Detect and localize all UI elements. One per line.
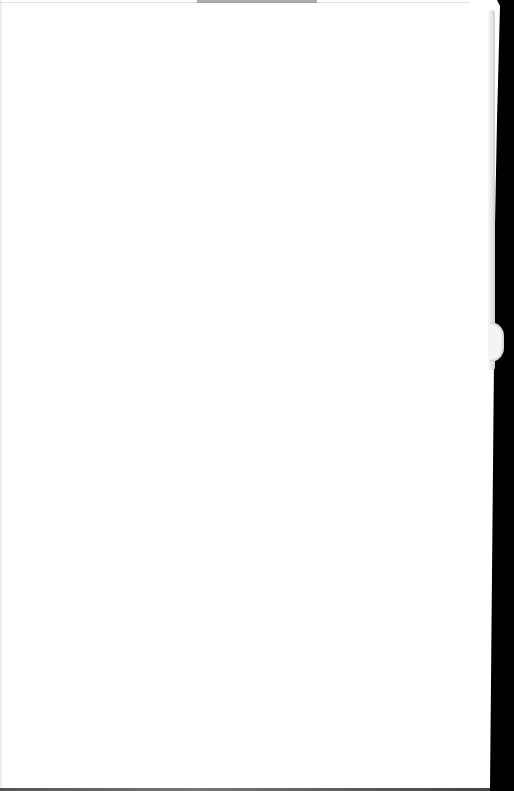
- cut-off-running-header: [197, 0, 317, 3]
- blank-page: [0, 0, 500, 790]
- page-curl: [490, 322, 504, 362]
- page-left-shadow: [0, 0, 2, 790]
- page-edge-shadow: [487, 10, 495, 370]
